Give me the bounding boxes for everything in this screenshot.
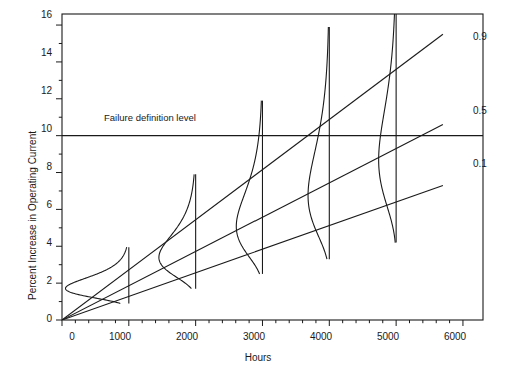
- degradation-chart: Percent Increase in Operating Current Ho…: [0, 0, 516, 381]
- plot-frame: [62, 14, 483, 320]
- dist-3000-density: [236, 101, 261, 274]
- dist-4000-density: [308, 27, 328, 259]
- dist-2000-density: [159, 174, 194, 288]
- quantile-line-0-1: [62, 185, 443, 320]
- dist-5000-density: [379, 14, 396, 243]
- quantile-line-0-9: [62, 34, 443, 320]
- plot-area: [0, 0, 516, 381]
- quantile-line-0-5: [62, 125, 443, 320]
